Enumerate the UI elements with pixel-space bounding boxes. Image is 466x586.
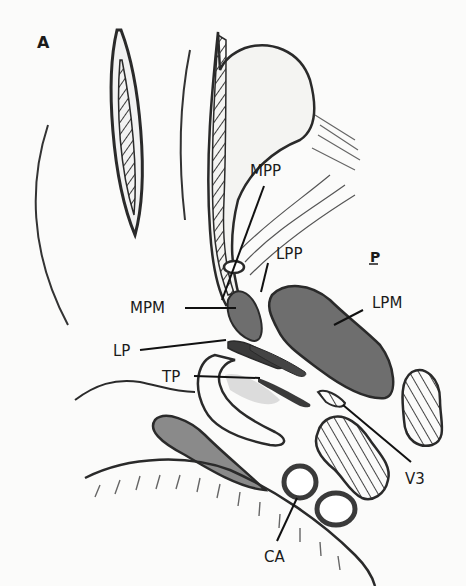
feathered-line — [181, 50, 190, 220]
carotid-artery — [284, 466, 316, 498]
label-lpp: LPP — [276, 245, 302, 263]
label-mpp: MPP — [250, 162, 281, 180]
v3-nerve — [318, 391, 345, 407]
leader-lpp — [261, 263, 268, 292]
leader-lp — [140, 340, 226, 350]
leader-tp — [194, 376, 260, 378]
label-ca: CA — [264, 548, 285, 566]
anatomical-diagram: A MPP LPP LPM MPM — [0, 0, 466, 586]
label-v3: V3 — [405, 470, 425, 488]
mpm-muscle — [228, 291, 262, 341]
hatched-block-right — [402, 370, 442, 446]
label-lpm: LPM — [372, 294, 402, 312]
panel-label: A — [37, 33, 50, 52]
orientation-marker: P — [370, 249, 380, 265]
left-contour — [36, 125, 68, 325]
label-mpm: MPM — [130, 299, 165, 317]
hatched-block-center — [316, 417, 389, 500]
vein-circle — [317, 493, 355, 525]
label-lp: LP — [113, 342, 130, 360]
label-tp: TP — [161, 368, 180, 386]
